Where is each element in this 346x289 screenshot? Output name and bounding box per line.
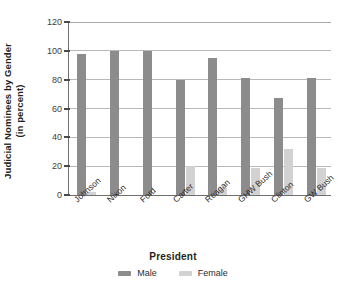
bar-male [176,80,185,195]
bar-male [208,58,217,195]
legend-label: Female [198,268,228,278]
bar-male [77,54,86,195]
bar-group [305,22,327,195]
y-axis-title: Judicial Nominees by Gender (in percent) [0,18,26,204]
legend-label: Male [137,268,157,278]
bar-male [274,98,283,195]
y-axis-title-line2: (in percent) [13,43,25,179]
y-axis-tick-label: 100 [47,46,62,56]
plot-area: 020406080100120 [68,22,331,196]
bar-series-container [69,22,331,195]
x-axis-title: President [0,251,346,262]
bar-group [75,22,97,195]
legend-swatch-icon [118,271,131,276]
bar-group [108,22,130,195]
bar-male [241,78,250,195]
legend-item: Male [118,268,157,278]
chart-legend: MaleFemale [0,268,346,278]
y-axis-tick-label: 0 [57,190,62,200]
bar-group [174,22,196,195]
y-axis-tick-label: 40 [52,132,62,142]
bar-group [206,22,228,195]
legend-swatch-icon [179,271,192,276]
y-axis-tick-label: 120 [47,17,62,27]
y-axis-tick-label: 60 [52,104,62,114]
y-axis-tick-label: 20 [52,161,62,171]
bar-group [272,22,294,195]
bar-group [141,22,163,195]
bar-chart-figure: Judicial Nominees by Gender (in percent)… [0,0,346,289]
bar-male [307,78,316,195]
bar-male [110,51,119,195]
bar-male [143,51,152,195]
bar-group [239,22,261,195]
x-axis-tick-labels: JohnsonNixonFordCarterReaganGHW BushClin… [68,197,330,249]
y-axis-tick-label: 80 [52,75,62,85]
y-axis-title-line1: Judicial Nominees by Gender [2,43,13,179]
legend-item: Female [179,268,228,278]
